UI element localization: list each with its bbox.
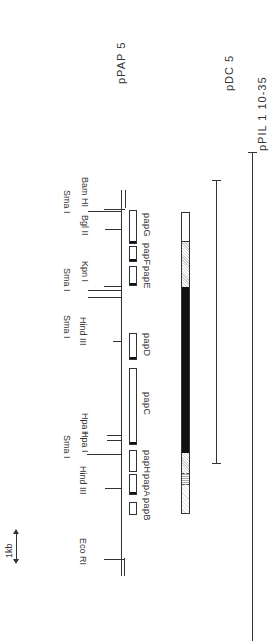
site-label-smai-3: Sma I xyxy=(62,315,72,339)
gene-label-papb: papB xyxy=(142,498,152,521)
gene-label-paph: papH xyxy=(142,450,152,474)
site-label-bglii: Bgl II xyxy=(80,215,90,236)
gene-box-papg xyxy=(129,210,137,244)
gene-box-papa xyxy=(129,474,137,495)
scale-bar-line xyxy=(16,532,17,562)
site-tick-smai-4 xyxy=(87,454,121,455)
pdc5-segment-stipple-bottom xyxy=(182,485,189,513)
site-tick-smai-3 xyxy=(88,297,121,298)
pdc5-segment-dark xyxy=(182,287,189,453)
ppil-extent-line xyxy=(252,152,253,641)
site-tick-smai-2 xyxy=(88,290,121,291)
ppap5-backbone xyxy=(121,190,122,576)
site-label-bamhi: Bam HI xyxy=(80,177,90,207)
gene-label-papf: papF xyxy=(142,243,152,266)
pdc5-segment-dotted xyxy=(182,473,189,485)
ppap5-end-bottom xyxy=(124,558,125,576)
gene-label-papg: papG xyxy=(142,213,152,237)
pdc5-segment-stipple-mid xyxy=(182,453,189,473)
gene-label-papd: papD xyxy=(142,333,152,357)
gene-label-pape: papE xyxy=(142,266,152,289)
site-label-kpni: Kpn I xyxy=(80,261,90,282)
ppap5-end-top xyxy=(125,190,126,208)
scale-bar-label: 1kb xyxy=(4,543,14,558)
gene-box-papb xyxy=(129,502,137,515)
site-tick-hpai-1 xyxy=(107,435,121,436)
plasmid-label-pdc5: pDC 5 xyxy=(223,55,235,91)
site-label-smai-2: Sma I xyxy=(62,268,72,292)
site-tick-bglii xyxy=(105,229,121,230)
pdc5-insert-bar xyxy=(181,212,190,514)
scale-arrow-up-icon xyxy=(13,529,19,534)
plasmid-label-ppil110-35: pPIL 1 10-35 xyxy=(256,76,268,151)
gene-label-papc: papC xyxy=(142,392,152,416)
pdc5-segment-stipple-top xyxy=(182,242,189,287)
site-label-hpai-2: Hpa I xyxy=(80,431,90,453)
site-tick-hindiii-1 xyxy=(113,341,121,342)
gene-box-papc xyxy=(129,368,137,445)
site-label-ecori: Eco RI xyxy=(78,538,88,565)
site-label-smai-4: Sma I xyxy=(62,435,72,459)
gene-box-pape xyxy=(129,266,137,286)
gene-box-papf xyxy=(129,246,137,262)
site-label-smai-1: Sma I xyxy=(62,190,72,214)
pdc5-extent-cap-bottom xyxy=(212,463,221,464)
plasmid-label-ppap5: pPAP 5 xyxy=(115,42,127,84)
site-tick-kpni xyxy=(104,286,121,287)
gene-box-papd xyxy=(129,333,137,360)
site-tick-bamhi xyxy=(104,209,125,210)
site-tick-ecori xyxy=(104,559,124,560)
gene-label-papa: papA xyxy=(142,474,152,497)
site-tick-smai-1 xyxy=(88,211,121,212)
site-tick-hindiii-2 xyxy=(105,488,121,489)
scale-arrow-down-icon xyxy=(13,559,19,564)
site-label-hindiii-1: Hind III xyxy=(78,317,88,346)
site-tick-hpai-2 xyxy=(107,440,121,441)
site-label-hindiii-2: Hind III xyxy=(78,466,88,495)
gene-box-paph xyxy=(129,450,137,472)
pdc5-segment-open-top xyxy=(182,213,189,242)
pdc5-extent-line xyxy=(216,180,217,463)
